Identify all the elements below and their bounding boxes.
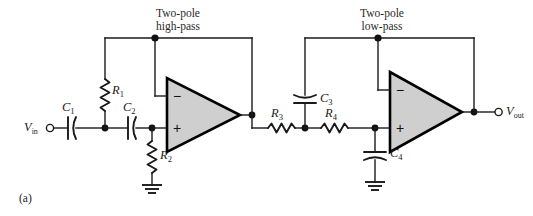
filter-circuit-figure: Two-pole high-pass Two-pole low-pass Vin… <box>0 0 533 216</box>
input-port-sub: in <box>32 127 38 136</box>
label-c1: C1 <box>62 100 75 114</box>
node-highpass-top-junction <box>151 34 158 41</box>
opamp-1-noninverting-sign: + <box>173 121 181 135</box>
output-terminal[interactable] <box>495 108 502 115</box>
opamp-2-inverting-sign: − <box>396 83 404 97</box>
label-c3: C3 <box>320 91 333 105</box>
node-lowpass-top-junction <box>374 34 381 41</box>
circuit-schematic <box>0 0 533 216</box>
label-r2: R2 <box>160 148 172 162</box>
opamp-1-inverting-sign: − <box>173 89 181 103</box>
label-c4: C4 <box>390 146 403 160</box>
output-port-sub: out <box>514 111 524 120</box>
output-port-label: Vout <box>506 104 524 118</box>
r2-zigzag <box>148 141 157 173</box>
r3-zigzag <box>268 124 295 133</box>
stage-label-high-pass-line2: high-pass <box>156 20 200 32</box>
label-r3: R3 <box>271 106 283 120</box>
stage-label-low-pass-line2: low-pass <box>362 20 403 32</box>
label-r4: R4 <box>325 106 337 120</box>
input-port-label: Vin <box>24 120 38 134</box>
input-terminal[interactable] <box>46 124 53 131</box>
label-c2: C2 <box>123 100 136 114</box>
input-port-name: V <box>24 120 32 134</box>
stage-label-low-pass-line1: Two-pole <box>360 7 404 19</box>
r4-zigzag <box>321 124 348 133</box>
panel-label: (a) <box>19 192 32 205</box>
stage-label-high-pass-line1: Two-pole <box>156 7 200 19</box>
label-r1: R1 <box>112 83 124 97</box>
r1-zigzag <box>101 79 110 111</box>
opamp-2-noninverting-sign: + <box>396 121 404 135</box>
stage-label-high-pass: Two-pole high-pass <box>132 7 224 33</box>
stage-label-low-pass: Two-pole low-pass <box>336 7 428 33</box>
output-port-name: V <box>506 104 514 118</box>
